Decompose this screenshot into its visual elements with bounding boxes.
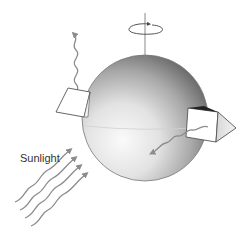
rotation-arrow-icon (129, 24, 163, 35)
surface-prism-right (186, 106, 236, 142)
diagram-canvas: Sunlight (0, 0, 250, 236)
surface-panel-left (56, 88, 90, 117)
sunlight-label: Sunlight (20, 152, 60, 164)
